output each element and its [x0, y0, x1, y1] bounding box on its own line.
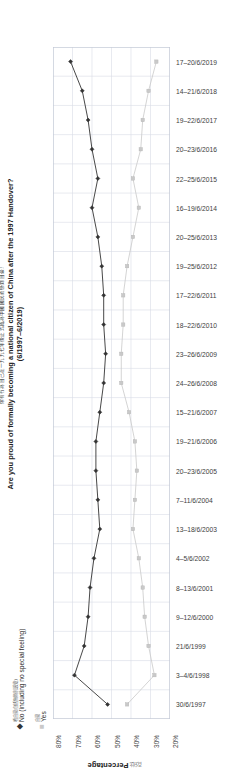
percentage-axis-title-en: Percentage [88, 761, 129, 770]
date-tick-label: 17–20/6/2019 [176, 58, 217, 65]
legend-marker-icon: ◆ [16, 722, 24, 731]
date-tick-label: 18–22/6/2010 [176, 321, 217, 328]
data-point [131, 235, 134, 238]
data-point [147, 89, 150, 92]
data-point [137, 557, 140, 560]
legend-label-en: No (including no special feeling) [18, 629, 25, 722]
percentage-tick-label: 70% [75, 735, 82, 748]
percentage-axis-title: 百分比Percentage [60, 757, 170, 775]
data-point [139, 148, 142, 151]
legend-label: 自豪Yes [36, 711, 48, 722]
chart-title: 你有冇為自己在一九九七年後正式成為中國國民而感到自豪？ Are you prou… [0, 154, 35, 514]
data-point [120, 381, 123, 384]
chart-plot-area [53, 47, 170, 719]
percentage-tick-label: 60% [94, 735, 101, 748]
date-tick-label: 21/6/1999 [176, 643, 206, 650]
date-axis-labels: 17–20/6/201914–21/6/201819–22/6/201720–2… [176, 47, 240, 719]
data-point [133, 440, 136, 443]
data-point [131, 527, 134, 530]
chart-title-chinese: 你有冇為自己在一九九七年後正式成為中國國民而感到自豪？ [0, 154, 5, 514]
percentage-tick-label: 20% [172, 735, 179, 748]
date-tick-label: 13–18/6/2003 [176, 526, 217, 533]
date-tick-label: 20–23/6/2005 [176, 467, 217, 474]
date-tick-label: 23–26/6/2009 [176, 350, 217, 357]
date-tick-label: 15–21/6/2007 [176, 409, 217, 416]
data-point [143, 615, 146, 618]
percentage-axis-labels: 80%70%60%50%40%30%20% [53, 722, 170, 754]
date-tick-label: 20–23/6/2016 [176, 146, 217, 153]
percentage-tick-label: 40% [133, 735, 140, 748]
data-point [147, 644, 150, 647]
percentage-tick-label: 80% [55, 735, 62, 748]
data-point [122, 323, 125, 326]
data-point [141, 586, 144, 589]
date-tick-label: 9–12/6/2000 [176, 613, 213, 620]
percentage-tick-label: 50% [114, 735, 121, 748]
date-tick-label: 17–22/6/2011 [176, 292, 216, 299]
legend-item-yes[interactable]: ■自豪Yes [33, 711, 49, 731]
data-point [141, 118, 144, 121]
data-point [137, 206, 140, 209]
date-tick-label: 24–26/6/2008 [176, 380, 217, 387]
date-tick-label: 19–25/6/2012 [176, 263, 217, 270]
data-point [135, 469, 138, 472]
chart-svg [53, 47, 170, 719]
data-point [131, 177, 134, 180]
legend-label: 唔自豪(包括無特別感覺)No (including no special fee… [14, 629, 26, 722]
data-point [120, 352, 123, 355]
date-tick-label: 7–11/6/2004 [176, 496, 213, 503]
date-tick-label: 19–22/6/2017 [176, 117, 217, 124]
date-tick-label: 4–5/6/2002 [176, 555, 209, 562]
legend-label-en: Yes [40, 711, 47, 722]
data-point [125, 703, 128, 706]
date-tick-label: 30/6/1997 [176, 701, 206, 708]
data-point [133, 498, 136, 501]
data-point [122, 294, 125, 297]
date-tick-label: 14–21/6/2018 [176, 87, 217, 94]
date-tick-label: 8–13/6/2001 [176, 584, 213, 591]
percentage-axis-title-cn: 百分比 [130, 762, 142, 768]
chart-title-range: (6/1997–6/2019) [15, 154, 24, 514]
date-tick-label: 16–19/6/2014 [176, 204, 217, 211]
percentage-tick-label: 30% [153, 735, 160, 748]
data-point [155, 60, 158, 63]
chart-legend: ◆唔自豪(包括無特別感覺)No (including no special fe… [11, 623, 55, 731]
data-point [125, 264, 128, 267]
legend-marker-icon: ■ [38, 722, 46, 731]
date-tick-label: 19–21/6/2006 [176, 438, 217, 445]
date-tick-label: 20–25/6/2013 [176, 233, 217, 240]
data-point [153, 673, 156, 676]
data-point [127, 411, 130, 414]
chart-title-english: Are you proud of formally becoming a nat… [6, 154, 15, 514]
legend-item-no[interactable]: ◆唔自豪(包括無特別感覺)No (including no special fe… [11, 629, 27, 731]
date-tick-label: 22–25/6/2015 [176, 175, 217, 182]
date-tick-label: 3–4/6/1998 [176, 672, 209, 679]
